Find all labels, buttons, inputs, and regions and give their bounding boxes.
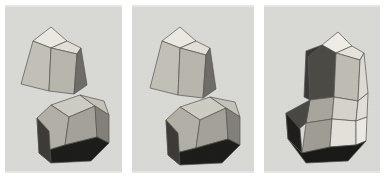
cupola-left-face <box>21 41 51 91</box>
pentagonal-cupola-b <box>150 27 216 98</box>
rhombic-solid-b <box>166 97 240 165</box>
panel-c <box>264 5 380 173</box>
panel-a-illustration <box>5 5 122 173</box>
panel-a <box>5 5 122 173</box>
fused-upper-front-face <box>334 53 360 101</box>
panel-c-bottom-edge <box>264 171 380 173</box>
figure-root <box>0 0 388 179</box>
cupola-front-face <box>49 48 77 94</box>
panel-c-top-edge <box>264 5 380 7</box>
pentagonal-cupola-a <box>21 27 87 94</box>
fused-mid-center-face <box>332 97 358 121</box>
panel-a-top-edge <box>5 5 122 7</box>
rhombic-solid-a <box>37 95 109 163</box>
fused-lower-far-right-face <box>356 117 367 145</box>
panel-b-top-edge <box>132 5 254 7</box>
panel-a-bottom-edge <box>5 171 122 173</box>
panel-b <box>132 5 254 173</box>
fused-lower-right-face <box>330 119 356 147</box>
cupola-front-face <box>178 48 206 98</box>
fused-polyhedron <box>286 32 368 163</box>
panel-c-illustration <box>264 5 380 173</box>
cupola-left-face <box>150 41 180 95</box>
panel-b-illustration <box>132 5 254 173</box>
panel-b-bottom-edge <box>132 171 254 173</box>
